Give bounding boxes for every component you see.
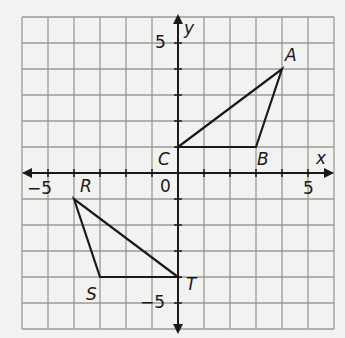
y-tick-label-neg5: −5: [140, 292, 165, 312]
vertex-label-r: R: [80, 176, 92, 196]
x-axis-left-arrow-icon: [22, 168, 32, 178]
y-axis-label: y: [183, 18, 195, 38]
x-axis-right-arrow-icon: [324, 168, 334, 178]
vertex-label-c: C: [158, 149, 170, 169]
vertex-label-b: B: [257, 149, 269, 169]
x-tick-label-5: 5: [303, 178, 314, 198]
vertex-label-s: S: [86, 284, 97, 304]
coordinate-plane: y x 5 −5 −5 5 0 A B C R S T: [0, 0, 345, 338]
x-axis-label: x: [315, 148, 327, 168]
vertex-label-a: A: [284, 45, 297, 65]
vertex-label-t: T: [186, 274, 198, 294]
y-axis-up-arrow-icon: [173, 14, 183, 24]
y-tick-label-5: 5: [155, 32, 166, 52]
origin-label: 0: [160, 176, 171, 196]
x-tick-label-neg5: −5: [27, 178, 52, 198]
